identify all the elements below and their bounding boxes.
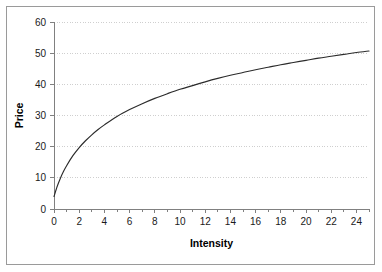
x-tick-label: 4 [102, 216, 108, 227]
x-tick-label: 2 [76, 216, 82, 227]
y-tick-label: 20 [35, 141, 47, 152]
x-tick-label: 10 [174, 216, 186, 227]
x-tick-label: 12 [200, 216, 212, 227]
x-tick-label: 6 [127, 216, 133, 227]
y-tick-label: 0 [40, 204, 46, 215]
y-tick-label: 50 [35, 48, 47, 59]
x-tick-label: 18 [275, 216, 287, 227]
x-axis-title: Intensity [190, 237, 233, 249]
y-tick-label: 10 [35, 172, 47, 183]
x-tick-label: 20 [300, 216, 312, 227]
x-tick-label: 8 [152, 216, 158, 227]
x-tick-label: 14 [225, 216, 237, 227]
x-tick-label: 22 [326, 216, 338, 227]
price-intensity-line-chart: 60 50 40 30 20 10 0 [7, 7, 374, 264]
y-tick-label: 40 [35, 79, 47, 90]
x-tick-label: 24 [351, 216, 363, 227]
x-tick-label: 0 [51, 216, 57, 227]
y-axis-title: Price [13, 102, 25, 128]
y-tick-label: 30 [35, 110, 47, 121]
chart-border-frame: 60 50 40 30 20 10 0 [6, 6, 375, 265]
x-tick-label: 16 [250, 216, 262, 227]
chart-background [7, 7, 374, 264]
y-tick-label: 60 [35, 17, 47, 28]
